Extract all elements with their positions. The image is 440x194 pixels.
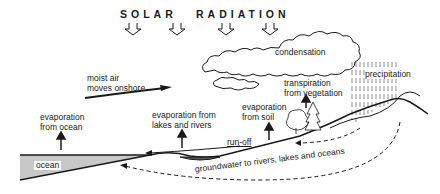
label-transpiration: transpiration from vegetation — [284, 78, 343, 98]
arrow-up-icon — [178, 130, 186, 137]
label-evap-soil: evaporation from soil — [242, 102, 286, 122]
sun-arrow-icon — [169, 23, 185, 35]
runoff-arrow — [150, 146, 240, 153]
solar-arrows — [125, 23, 278, 35]
sun-arrow-icon — [218, 23, 234, 35]
label-precipitation: precipitation — [365, 69, 411, 79]
label-ocean: ocean — [34, 161, 61, 170]
hill-line — [330, 92, 420, 128]
label-evap-lakes: evaporation from lakes and rivers — [152, 110, 216, 130]
title-radiation: RADIATION — [196, 8, 290, 20]
label-moist-air: moist air moves onshore — [87, 73, 145, 93]
title-solar: SOLAR — [120, 8, 177, 20]
label-runoff: run-off — [227, 137, 251, 147]
groundwater-arrow — [125, 122, 400, 180]
lake — [180, 157, 220, 160]
arrow-up-icon — [265, 123, 273, 130]
label-condensation: condensation — [275, 47, 326, 57]
tree-icon — [286, 102, 321, 134]
label-evap-ocean: evaporation from ocean — [40, 112, 84, 132]
sun-arrow-icon — [262, 23, 278, 35]
sun-arrow-icon — [125, 23, 141, 35]
arrow-up-icon — [57, 132, 65, 139]
